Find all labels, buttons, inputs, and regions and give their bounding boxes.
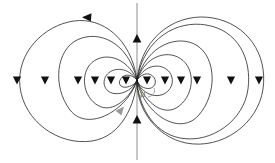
inner-loop-flow-arrow [116,107,125,116]
equator-arrowhead-left-2 [41,77,49,85]
magnetic-moment-label: μ [139,87,146,99]
dipole-field-figure: μ [0,0,275,163]
equator-arrowhead-left-4 [91,77,99,85]
right-lobe-fieldlines [137,17,264,144]
equator-arrowhead-right-4 [193,77,201,85]
equator-arrowhead-left-3 [74,77,82,85]
equator-arrowhead-right-5 [227,77,235,85]
equator-arrowhead-left-6 [122,77,130,85]
axis-arrowhead-upper [133,34,142,43]
equatorial-arrowheads-right [143,77,263,85]
axis-arrowhead-lower [133,115,142,124]
equator-arrowhead-right-1 [143,77,151,85]
equator-arrowhead-right-3 [177,77,185,85]
fieldline-right-4 [137,41,212,124]
equator-arrowhead-left-5 [107,77,115,85]
equatorial-arrowheads-left [13,77,130,85]
equator-arrowhead-right-2 [161,77,169,85]
dipole-field-diagram: μ [0,0,275,163]
equator-arrowhead-right-6 [255,77,263,85]
